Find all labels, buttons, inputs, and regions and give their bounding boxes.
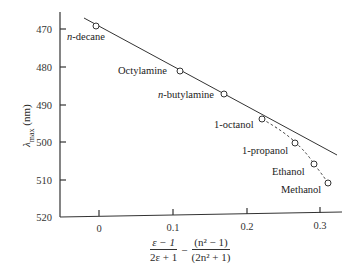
point-1-octanol (259, 116, 265, 122)
x-tick-0: 0 (96, 223, 101, 234)
point-octylamine (177, 68, 183, 74)
chart-canvas: 470 480 490 500 510 520 0 0.1 0.2 0.3 n-… (0, 0, 353, 276)
y-tick-500: 500 (36, 137, 52, 148)
label-n-decane: n-decane (67, 31, 105, 42)
x-tick-0.3: 0.3 (313, 220, 326, 231)
x-axis (60, 212, 342, 217)
point-methanol (325, 180, 331, 186)
x-label-fraction-2: (n² − 1) (2n² + 1) (192, 236, 231, 263)
data-points (93, 23, 331, 186)
x-tick-0.1: 0.1 (166, 222, 179, 233)
point-ethanol (311, 161, 317, 167)
y-tick-510: 510 (36, 175, 52, 186)
point-n-butylamine (221, 91, 227, 97)
y-axis-label: λmax (nm) (20, 96, 35, 156)
label-ethanol: Ethanol (272, 166, 305, 177)
point-1-propanol (292, 140, 298, 146)
label-n-butylamine: n-butylamine (158, 89, 214, 100)
point-n-decane (93, 23, 99, 29)
label-1-propanol: 1-propanol (242, 145, 288, 156)
y-tick-490: 490 (36, 100, 52, 111)
x-tick-0.2: 0.2 (240, 221, 253, 232)
label-methanol: Methanol (281, 184, 321, 195)
y-ticks: 470 480 490 500 510 520 (36, 24, 66, 223)
y-tick-520: 520 (36, 212, 52, 223)
x-label-fraction-1: ε − 1 2ε + 1 (150, 236, 177, 263)
label-octylamine: Octylamine (118, 65, 167, 76)
linear-fit-line (84, 18, 337, 155)
x-axis-label: ε − 1 2ε + 1 − (n² − 1) (2n² + 1) (150, 236, 230, 263)
x-ticks: 0 0.1 0.2 0.3 (96, 207, 326, 234)
label-1-octanol: 1-octanol (214, 119, 254, 130)
y-tick-480: 480 (36, 62, 52, 73)
y-tick-470: 470 (36, 24, 52, 35)
